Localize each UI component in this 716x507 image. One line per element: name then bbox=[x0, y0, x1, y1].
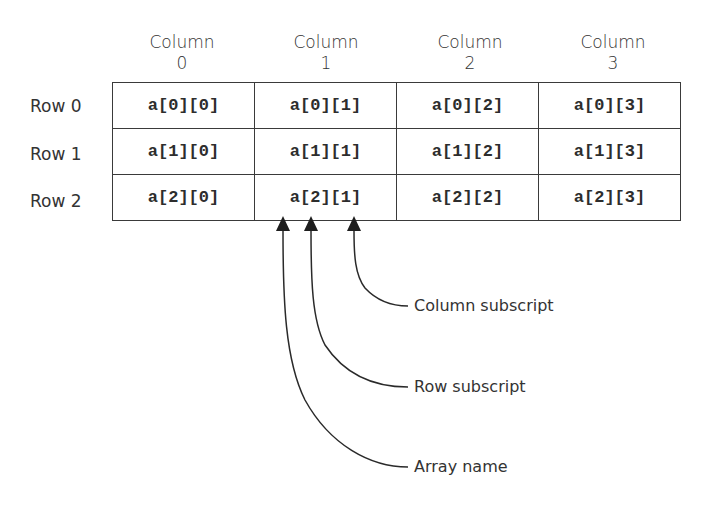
arrow-array-name-icon bbox=[276, 216, 408, 467]
callout-arrows bbox=[0, 0, 716, 507]
callout-array-name: Array name bbox=[414, 457, 508, 476]
arrow-row-subscript-icon bbox=[304, 216, 408, 387]
callout-column-subscript: Column subscript bbox=[414, 296, 554, 315]
callout-row-subscript: Row subscript bbox=[414, 377, 526, 396]
arrow-column-subscript-icon bbox=[347, 216, 408, 306]
